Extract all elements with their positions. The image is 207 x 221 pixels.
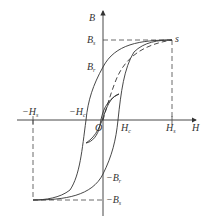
origin-label: O (95, 122, 102, 133)
diagram-svg: B H O Bs Br −Br −Bs Hc Hs −Hs −Hc s (0, 0, 207, 221)
bs-label: Bs (87, 34, 96, 46)
axes (17, 11, 196, 216)
neg-br-label: −Br (106, 172, 122, 184)
hysteresis-diagram: B H O Bs Br −Br −Bs Hc Hs −Hs −Hc s (0, 0, 207, 221)
hs-label: Hs (165, 122, 176, 134)
neg-bs-label: −Bs (106, 194, 122, 206)
neg-hc-label: −Hc (69, 106, 86, 118)
saturation-point-label: s (175, 33, 179, 44)
initial-magnetization-curve (103, 40, 172, 120)
h-axis-label: H (191, 122, 200, 133)
b-axis-label: B (89, 12, 95, 23)
br-label: Br (87, 61, 96, 73)
minor-loop (86, 94, 119, 143)
hc-label: Hc (120, 122, 131, 134)
labels: B H O Bs Br −Br −Bs Hc Hs −Hs −Hc s (22, 12, 200, 206)
neg-hs-label: −Hs (22, 106, 39, 118)
